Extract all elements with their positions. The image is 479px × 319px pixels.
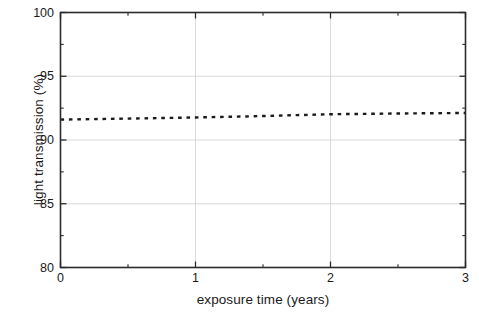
chart-figure: light transmission (%) 80859095100 0123 … — [0, 0, 479, 319]
x-axis-tick-labels: 0123 — [0, 272, 479, 292]
x-tick-label: 3 — [451, 272, 479, 285]
x-tick-label: 1 — [181, 272, 211, 285]
data-series-line — [61, 113, 466, 120]
x-tick-label: 2 — [316, 272, 346, 285]
x-axis-title: exposure time (years) — [60, 292, 466, 307]
x-tick-label: 0 — [46, 272, 76, 285]
